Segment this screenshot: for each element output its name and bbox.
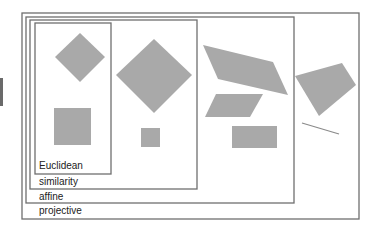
shapes bbox=[54, 33, 356, 148]
euclidean-diamond bbox=[55, 33, 105, 82]
affine-rectangle bbox=[232, 126, 277, 148]
similarity-small-square bbox=[141, 128, 160, 147]
affine-label: affine bbox=[39, 191, 63, 203]
similarity-label: similarity bbox=[39, 176, 78, 188]
projective-label: projective bbox=[39, 205, 82, 217]
euclidean-square bbox=[54, 108, 91, 145]
projective-line-segment bbox=[302, 123, 339, 134]
similarity-large-diamond bbox=[116, 39, 192, 113]
euclidean-label: Euclidean bbox=[39, 160, 83, 172]
projective-quadrilateral bbox=[295, 63, 356, 116]
affine-small-parallelogram bbox=[205, 94, 263, 117]
affine-large-parallelogram bbox=[203, 45, 288, 95]
